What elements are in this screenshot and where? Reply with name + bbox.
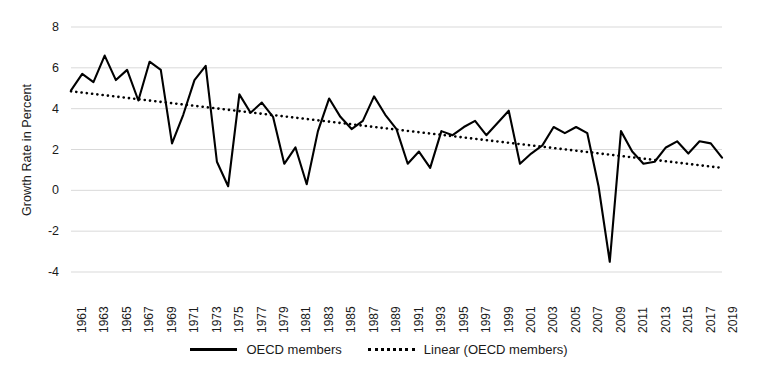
x-tick-label: 1963 bbox=[98, 306, 110, 333]
x-tick-label: 1975 bbox=[233, 306, 245, 333]
x-tick-label: 2019 bbox=[727, 306, 739, 333]
x-tick-label: 1999 bbox=[503, 306, 515, 333]
x-tick-label: 1979 bbox=[278, 306, 290, 333]
x-tick-label: 2001 bbox=[525, 306, 537, 333]
legend-item-oecd-members: OECD members bbox=[190, 342, 341, 357]
x-tick-label: 1983 bbox=[323, 306, 335, 333]
x-tick-label: 1981 bbox=[300, 306, 312, 333]
dotted-line-swatch-icon bbox=[368, 348, 415, 351]
x-tick-label: 1987 bbox=[368, 306, 380, 333]
x-tick-label: 1965 bbox=[121, 306, 133, 333]
x-tick-label: 2015 bbox=[682, 306, 694, 333]
x-tick-label: 1971 bbox=[188, 306, 200, 333]
gridlines bbox=[71, 27, 722, 272]
x-tick-label: 2007 bbox=[592, 306, 604, 333]
legend-label-linear-trend: Linear (OECD members) bbox=[424, 342, 568, 357]
legend-item-linear-trend: Linear (OECD members) bbox=[368, 342, 568, 357]
growth-rate-line-chart: Growth Rate in Percent 86420-2-4 1961196… bbox=[0, 0, 758, 382]
x-tick-label: 2005 bbox=[570, 306, 582, 333]
trendline-linear-oecd-members bbox=[71, 91, 722, 168]
x-tick-label: 1995 bbox=[458, 306, 470, 333]
x-tick-label: 1991 bbox=[413, 306, 425, 333]
chart-legend: OECD members Linear (OECD members) bbox=[0, 342, 758, 357]
x-tick-label: 1993 bbox=[435, 306, 447, 333]
x-tick-label: 2017 bbox=[705, 306, 717, 333]
x-tick-label: 2003 bbox=[547, 306, 559, 333]
x-tick-label: 2009 bbox=[615, 306, 627, 333]
x-tick-label: 1961 bbox=[76, 306, 88, 333]
x-tick-label: 1973 bbox=[211, 306, 223, 333]
legend-label-oecd-members: OECD members bbox=[246, 342, 341, 357]
x-tick-label: 2013 bbox=[660, 306, 672, 333]
x-tick-label: 1969 bbox=[166, 306, 178, 333]
x-tick-label: 1989 bbox=[390, 306, 402, 333]
x-tick-label: 1985 bbox=[345, 306, 357, 333]
x-tick-label: 2011 bbox=[637, 307, 649, 333]
x-tick-label: 1997 bbox=[480, 306, 492, 333]
x-tick-label: 1977 bbox=[256, 306, 268, 333]
solid-line-swatch-icon bbox=[190, 348, 237, 351]
x-tick-label: 1967 bbox=[143, 306, 155, 333]
